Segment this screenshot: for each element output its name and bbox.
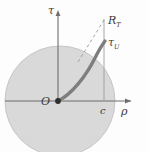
figure-container: τ ρ O c RT τU: [0, 0, 148, 152]
asymptote-label-r-t: RT: [107, 14, 121, 29]
tick-label-c: c: [100, 105, 106, 116]
asymptote-label-sub: T: [116, 21, 121, 29]
diagram-canvas: τ ρ O c RT τU: [0, 0, 148, 152]
asymptote-label-base: R: [107, 14, 116, 27]
origin-point-marker: [55, 98, 61, 104]
vertical-axis-label: τ: [48, 4, 55, 17]
origin-label: O: [41, 95, 50, 108]
horizontal-axis-label: ρ: [120, 105, 128, 118]
curve-label-sub: U: [114, 43, 120, 51]
vertical-axis-arrow: [56, 10, 61, 16]
curve-label-tau-u: τU: [108, 36, 120, 51]
horizontal-axis-arrow: [125, 99, 131, 104]
